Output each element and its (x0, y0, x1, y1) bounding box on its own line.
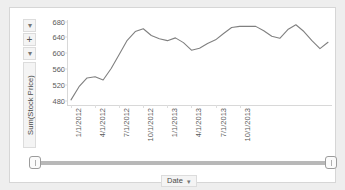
x-tick-label: 10/1/2012 (146, 108, 155, 141)
x-tick-mark (143, 105, 144, 108)
y-tick-mark (63, 85, 67, 86)
expand-plus-icon[interactable]: + (23, 33, 36, 46)
x-tick-label: 4/1/2012 (98, 108, 107, 137)
y-axis-title-text: Sum(Stock Price) (25, 75, 34, 135)
caret-down-icon-secondary[interactable]: ▾ (23, 47, 36, 60)
x-tick-label: 10/1/2013 (243, 108, 252, 141)
x-tick-mark (71, 105, 72, 108)
y-tick-mark (63, 53, 67, 54)
chevron-down-icon: ▾ (187, 178, 191, 185)
slider-track[interactable] (35, 161, 331, 165)
x-tick-mark (240, 105, 241, 108)
x-tick-mark (216, 105, 217, 108)
x-tick-mark (167, 105, 168, 108)
y-axis-field-pill[interactable]: ▾ + ▾ Sum(Stock Price) (23, 17, 38, 150)
x-tick-mark (119, 105, 120, 108)
x-tick-label: 1/1/2012 (74, 108, 83, 137)
x-tick-label: 7/1/2013 (219, 108, 228, 137)
x-tick-label: 1/1/2013 (170, 108, 179, 137)
slider-handle-left[interactable] (29, 156, 41, 169)
y-axis-title[interactable]: Sum(Stock Price) (23, 62, 36, 148)
x-axis-tick-labels: 1/1/20124/1/20127/1/201210/1/20121/1/201… (67, 108, 332, 148)
plot-area (67, 20, 332, 105)
chart-widget: ▾ + ▾ Sum(Stock Price) 48052056060064068… (0, 0, 345, 190)
y-tick-mark (63, 69, 67, 70)
x-axis-field-pill-date[interactable]: Date ▾ (161, 175, 197, 187)
line-series (67, 20, 332, 105)
y-tick-mark (63, 101, 67, 102)
x-tick-mark (191, 105, 192, 108)
x-tick-label: 4/1/2013 (194, 108, 203, 137)
y-axis-tick-labels: 480520560600640680 (40, 20, 65, 105)
caret-down-icon[interactable]: ▾ (23, 19, 36, 32)
slider-handle-right[interactable] (325, 156, 337, 169)
chart-panel: ▾ + ▾ Sum(Stock Price) 48052056060064068… (9, 7, 336, 183)
x-tick-label: 7/1/2012 (122, 108, 131, 137)
y-tick-mark (63, 37, 67, 38)
date-range-slider[interactable] (29, 156, 337, 170)
y-tick-mark (63, 21, 67, 22)
x-tick-mark (95, 105, 96, 108)
date-pill-label: Date (167, 177, 183, 185)
